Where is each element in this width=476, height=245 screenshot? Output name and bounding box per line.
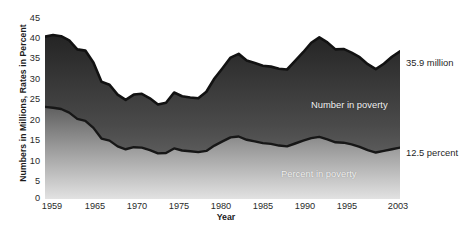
series-label-percent-in-poverty: Percent in poverty: [281, 168, 357, 179]
y-tick-40: 40: [16, 34, 40, 43]
y-axis-tick-group: 45 40 35 30 25 20 15 10 5 0: [16, 0, 40, 245]
series-label-number-in-poverty: Number in poverty: [311, 99, 388, 110]
x-tick-1995: 1995: [337, 201, 357, 211]
x-tick-1970: 1970: [127, 201, 147, 211]
y-tick-35: 35: [16, 54, 40, 63]
callout-percent-value: 12.5 percent: [406, 147, 458, 158]
x-tick-1975: 1975: [169, 201, 189, 211]
y-tick-25: 25: [16, 95, 40, 104]
y-tick-30: 30: [16, 75, 40, 84]
figure-caption-clipped: [26, 238, 450, 245]
x-tick-2003: 2003: [388, 201, 408, 211]
x-tick-1990: 1990: [295, 201, 315, 211]
y-tick-20: 20: [16, 116, 40, 125]
y-tick-0: 0: [16, 194, 40, 203]
y-tick-10: 10: [16, 157, 40, 166]
callout-number-value: 35.9 million: [406, 57, 453, 68]
x-tick-1980: 1980: [211, 201, 231, 211]
x-axis-title: Year: [217, 212, 236, 222]
y-tick-45: 45: [16, 14, 40, 23]
poverty-chart-figure: Numbers in Millions, Rates in Percent 45…: [0, 0, 476, 245]
y-tick-15: 15: [16, 136, 40, 145]
y-tick-5: 5: [16, 177, 40, 186]
x-tick-1959: 1959: [42, 201, 62, 211]
x-tick-1985: 1985: [253, 201, 273, 211]
x-tick-1965: 1965: [85, 201, 105, 211]
